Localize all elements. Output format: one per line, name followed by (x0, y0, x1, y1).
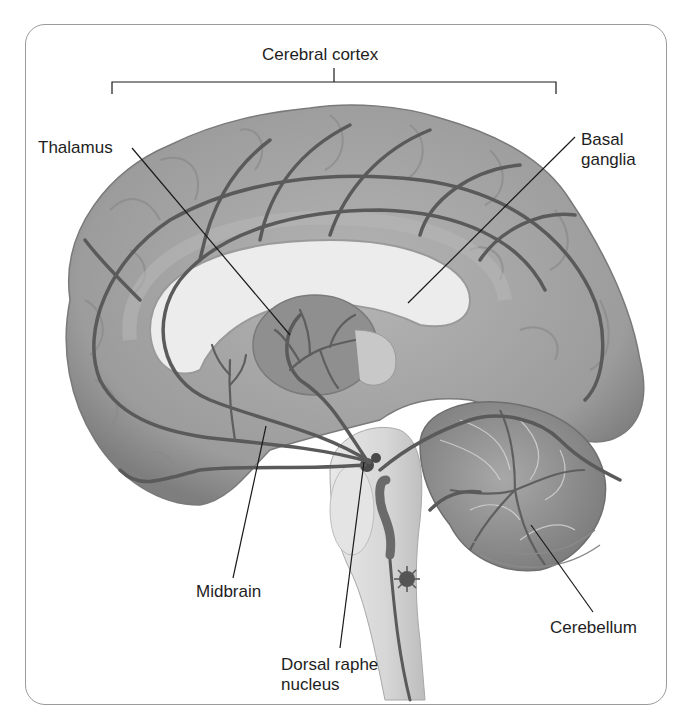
cerebral-cortex-bracket (112, 82, 556, 94)
label-thalamus: Thalamus (38, 138, 113, 158)
label-cerebellum: Cerebellum (550, 618, 637, 638)
label-basal-ganglia: Basal ganglia (581, 130, 636, 170)
brain-illustration (0, 0, 686, 724)
label-cerebral-cortex: Cerebral cortex (262, 45, 378, 65)
label-dorsal-raphe-nucleus: Dorsal raphe nucleus (281, 655, 378, 695)
label-midbrain: Midbrain (196, 582, 261, 602)
